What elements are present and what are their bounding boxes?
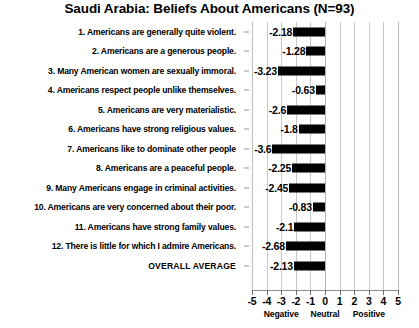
row-label: 10. Americans are very concerned about t… [2, 202, 236, 212]
chart-row: 9. Many Americans engage in criminal act… [0, 178, 419, 198]
axis-tick-label: 5 [387, 295, 409, 307]
bar-value-label: -2.1 [223, 221, 293, 233]
chart-title: Saudi Arabia: Beliefs About Americans (N… [0, 1, 419, 16]
chart-row: 3. Many American women are sexually immo… [0, 61, 419, 81]
bar [272, 144, 325, 153]
chart-row: 7. Americans like to dominate other peop… [0, 139, 419, 159]
bar [306, 47, 325, 56]
chart-container: Saudi Arabia: Beliefs About Americans (N… [0, 0, 419, 328]
bar-value-label: -2.18 [222, 26, 292, 38]
bar-value-label: -2.45 [218, 182, 288, 194]
row-label: 8. Americans are a peaceful people. [2, 163, 236, 173]
row-label: 12. There is little for which I admire A… [2, 241, 236, 251]
bar-value-label: -1.8 [228, 123, 298, 135]
bar [287, 105, 325, 114]
bar-value-label: -3.6 [201, 143, 271, 155]
chart-row: 10. Americans are very concerned about t… [0, 198, 419, 218]
bar-value-label: -2.68 [215, 240, 285, 252]
row-label: 9. Many Americans engage in criminal act… [2, 183, 236, 193]
row-label: 5. Americans are very materialistic. [2, 105, 236, 115]
chart-row: 5. Americans are very materialistic.-2.6 [0, 100, 419, 120]
bar [294, 261, 325, 270]
row-label: 1. Americans are generally quite violent… [2, 27, 236, 37]
bar [289, 183, 325, 192]
row-label: 11. Americans have strong family values. [2, 222, 236, 232]
bar-value-label: -2.25 [221, 162, 291, 174]
chart-row: 1. Americans are generally quite violent… [0, 22, 419, 42]
bar-rows: 1. Americans are generally quite violent… [0, 22, 419, 290]
bar [292, 164, 325, 173]
bar [299, 125, 325, 134]
chart-row: 8. Americans are a peaceful people.-2.25 [0, 159, 419, 179]
bar [316, 86, 325, 95]
bar [294, 222, 325, 231]
row-label: 3. Many American women are sexually immo… [2, 66, 236, 76]
bar [293, 27, 325, 36]
bar [278, 66, 325, 75]
bar-value-label: -2.13 [223, 260, 293, 272]
row-label: 6. Americans have strong religious value… [2, 124, 236, 134]
bar-value-label: -0.83 [242, 201, 312, 213]
chart-row: 2. Americans are a generous people.-1.28 [0, 42, 419, 62]
bar-value-label: -3.23 [207, 65, 277, 77]
chart-row: OVERALL AVERAGE-2.13 [0, 256, 419, 276]
chart-row: 4. Americans respect people unlike thems… [0, 81, 419, 101]
row-label: 2. Americans are a generous people. [2, 46, 236, 56]
bar [286, 242, 325, 251]
row-label: OVERALL AVERAGE [2, 261, 236, 271]
band-label-positive: Positive [329, 309, 409, 319]
bar [313, 203, 325, 212]
bar-value-label: -0.63 [245, 84, 315, 96]
bar-value-label: -2.6 [216, 104, 286, 116]
bar-value-label: -1.28 [235, 45, 305, 57]
chart-row: 11. Americans have strong family values.… [0, 217, 419, 237]
chart-row: 12. There is little for which I admire A… [0, 237, 419, 257]
chart-row: 6. Americans have strong religious value… [0, 120, 419, 140]
row-label: 4. Americans respect people unlike thems… [2, 85, 236, 95]
